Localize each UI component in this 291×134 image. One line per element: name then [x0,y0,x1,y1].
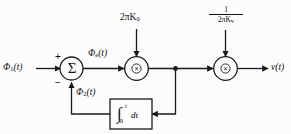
feedback-signal-arg: (t) [86,87,95,97]
feedback-signal-label: Φ2(t) [76,88,95,98]
scale-gain-denominator-text: 2πK [218,15,231,24]
error-signal-arg: (t) [98,48,107,58]
wire-node-to-integrator [152,69,176,115]
sum-plus-sign: + [55,52,61,62]
sum-minus-sign: − [55,78,61,88]
scale-gain-numerator: 1 [209,6,243,14]
pll-block-diagram: Σ + − × × Φ1(t) Φe(t) Φ2(t) v(t) 2πK0 1 … [0,0,291,134]
scale-gain-denominator: 2πKv [209,16,243,25]
scale-gain-denominator-subscript: v [231,17,234,24]
diagram-wiring [0,0,291,134]
summing-junction-sigma: Σ [64,61,80,76]
input-signal-label: Φ1(t) [3,63,22,73]
vco-gain-label: 2πK0 [120,13,140,23]
error-signal-label: Φe(t) [88,49,107,59]
vco-gain-subscript: 0 [136,15,139,22]
branch-node-dot [173,66,178,71]
integral-upper-limit: t [125,103,127,109]
input-signal-arg: (t) [13,62,22,72]
vco-gain-text: 2πK [120,12,136,22]
output-signal-arg: (t) [275,62,284,72]
output-signal-label: v(t) [271,63,284,73]
multiplier-right-times-glyph: × [221,65,230,72]
multiplier-left-times-glyph: × [132,65,141,72]
integral-lower-limit: 0 [120,118,123,124]
scale-gain-fraction: 1 2πKv [209,6,243,25]
integral-differential: dt [131,110,138,120]
